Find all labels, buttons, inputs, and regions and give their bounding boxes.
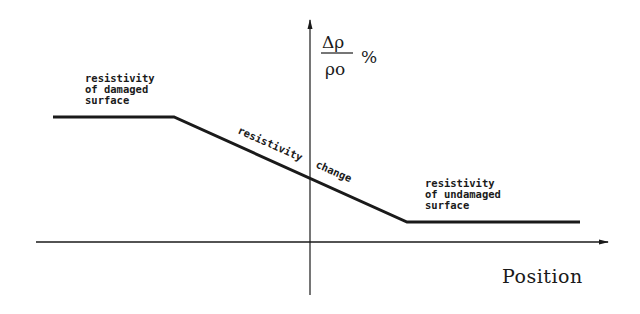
svg-text:surface: surface (85, 94, 129, 106)
svg-text:change: change (314, 158, 354, 184)
x-axis-label: Position (502, 265, 583, 287)
svg-text:resistivity: resistivity (236, 124, 305, 164)
y-axis-label: Δρ ρo % (321, 32, 377, 79)
y-label-denominator: ρo (325, 59, 345, 79)
damaged-surface-label: resistivity of damaged surface (85, 72, 155, 106)
resistivity-profile-diagram: Δρ ρo % resistivity of damaged surface r… (0, 0, 640, 314)
undamaged-surface-label: resistivity of undamaged surface (425, 177, 501, 211)
y-label-numerator: Δρ (322, 32, 344, 52)
svg-text:surface: surface (425, 199, 469, 211)
y-label-unit: % (361, 47, 377, 67)
